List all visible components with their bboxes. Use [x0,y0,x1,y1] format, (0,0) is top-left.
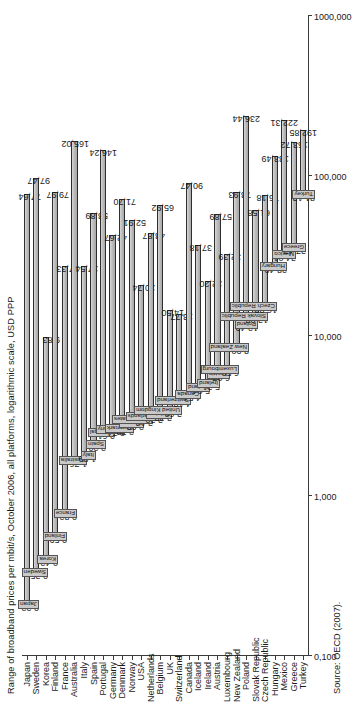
chart-title: Range of broadband prices per mbit/s, Oc… [6,297,16,694]
category-label: USA [136,662,146,702]
category-label: Iceland [193,662,203,702]
bar-max-value-label: 222,31 [271,119,299,129]
range-bar[interactable] [90,213,96,441]
bar-country-chip: Luxembourg [201,365,239,374]
category-label: Slovak Republic [251,662,261,702]
category-tick [27,656,28,660]
category-label: Ireland [203,662,213,702]
range-bar[interactable] [138,285,144,415]
range-bar[interactable] [71,141,77,457]
range-bar[interactable] [243,116,249,320]
range-bar[interactable] [167,310,173,406]
range-bar[interactable] [109,235,115,426]
bar-max-value-label: 236,44 [233,114,261,124]
category-tick [198,656,199,660]
category-tick [160,656,161,660]
category-label: Switzerland [174,662,184,702]
range-bar[interactable] [252,210,258,313]
category-label: Japan [22,662,32,702]
category-label: Italy [79,662,89,702]
category-label: Greece [289,662,299,702]
category-label: Canada [184,662,194,702]
range-bar[interactable] [81,266,87,452]
category-tick [74,656,75,660]
category-tick [284,656,285,660]
category-label: Norway [127,662,137,702]
range-bar[interactable] [148,233,154,413]
category-tick [208,656,209,660]
category-label: Turkey [298,662,308,702]
category-tick [189,656,190,660]
range-bar[interactable] [62,266,68,510]
range-bar[interactable] [100,150,106,430]
range-bar[interactable] [300,130,306,190]
range-bar[interactable] [43,337,49,556]
category-tick [170,656,171,660]
bar-country-chip: France [54,509,77,518]
range-bar[interactable] [272,156,278,263]
range-bar[interactable] [33,178,39,569]
chart-source: Source: OECD (2007). [332,602,342,694]
bar-max-value-label: 192,85 [290,128,318,138]
range-bar[interactable] [176,314,182,397]
plot-area: 0,22Japan77,640,35Sweden97,470,42Korea9,… [22,16,308,656]
category-tick [94,656,95,660]
bar-country-chip: Greece [282,243,306,252]
category-tick [141,656,142,660]
range-bar[interactable] [129,220,135,420]
category-label: Germany [108,662,118,702]
bar-max-value-label: 37,18 [190,243,213,253]
bar-country-chip: Finland [43,532,67,541]
category-tick [103,656,104,660]
bar-max-value-label: 71,70 [114,197,137,207]
chart-screenshot: Range of broadband prices per mbit/s, Oc… [0,0,354,702]
category-tick [122,656,123,660]
bar-country-chip: Hungary [259,262,286,271]
category-label: Korea [41,662,51,702]
value-axis-tick-label: 10,000 [314,332,342,342]
bar-country-chip: Korea [37,555,58,564]
category-tick [294,656,295,660]
bar-country-chip: Sweden [22,568,48,577]
category-label: Spain [89,662,99,702]
bar-max-value-label: 57,89 [209,212,232,222]
category-label: Portugal [98,662,108,702]
category-tick [132,656,133,660]
value-axis-tick [308,495,312,496]
category-label: Hungary [270,662,280,702]
range-bar[interactable] [262,195,268,303]
bar-country-chip: Czech Republic [230,302,277,311]
bar-country-chip: Spain [86,440,106,449]
bar-country-chip: Japan [18,600,39,609]
category-tick [217,656,218,660]
bar-country-chip: Turkey [293,190,316,199]
category-label: Belgium [155,662,165,702]
category-tick [55,656,56,660]
range-bar[interactable] [119,199,125,425]
value-axis-tick [308,175,312,176]
range-bar[interactable] [52,192,58,533]
category-tick [275,656,276,660]
category-tick [36,656,37,660]
rotated-chart-canvas: Range of broadband prices per mbit/s, Oc… [0,0,354,702]
bar-max-value-label: 79,97 [47,190,70,200]
range-bar[interactable] [186,183,192,391]
range-bar[interactable] [195,245,201,384]
category-tick [84,656,85,660]
bar-country-chip: New Zealand [208,343,248,352]
category-tick [65,656,66,660]
range-bar[interactable] [24,194,30,602]
category-label: Sweden [31,662,41,702]
value-axis-tick [308,655,312,656]
bar-max-value-label: 65,92 [152,203,175,213]
value-axis-tick-label: 100,000 [314,172,347,182]
category-label: Finland [50,662,60,702]
category-label: Netherlands [146,662,156,702]
value-axis-tick-label: 1,000 [314,492,337,502]
category-tick [46,656,47,660]
category-tick [113,656,114,660]
bar-max-value-label: 52,91 [123,218,146,228]
category-label: Poland [241,662,251,702]
category-label: Austria [212,662,222,702]
category-tick [246,656,247,660]
